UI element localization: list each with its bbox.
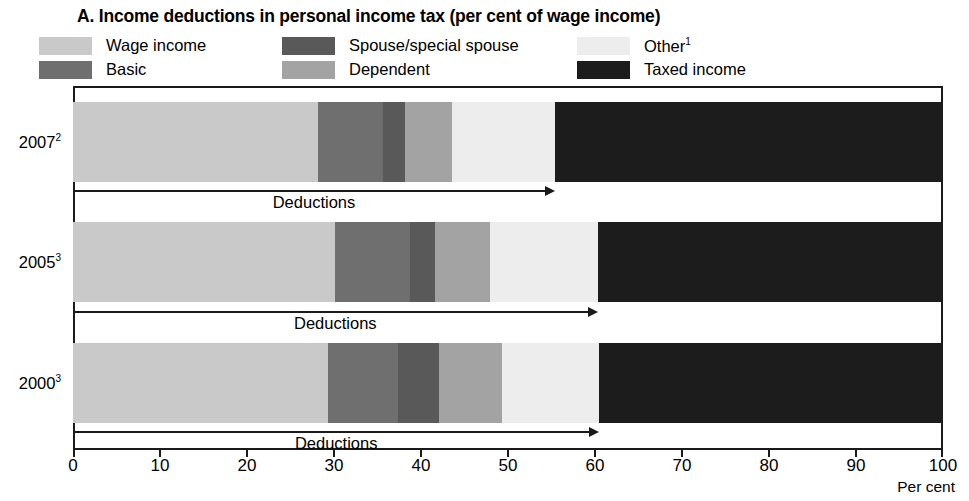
bar-stack: [73, 102, 943, 182]
bar-segment-basic: [335, 222, 410, 302]
legend-swatch-dependent: [282, 61, 335, 79]
legend-item-wage_income: Wage income: [39, 35, 206, 56]
bar-segment-basic: [318, 102, 382, 182]
bar-segment-dependent: [435, 222, 490, 302]
legend-label-wage_income: Wage income: [106, 37, 206, 54]
arrow-head: [589, 427, 599, 437]
axis-tick-label: 100: [929, 456, 957, 476]
arrow-shaft: [73, 311, 589, 313]
bar-segment-spouse: [410, 222, 435, 302]
income-deductions-chart: A. Income deductions in personal income …: [0, 0, 969, 501]
year-label-footnote: 3: [55, 252, 61, 263]
bar-segment-basic: [328, 343, 398, 423]
deduction-annotation: Deductions: [73, 307, 943, 341]
axis-tick-label: 0: [68, 456, 77, 476]
arrow-head: [588, 307, 598, 317]
year-label: 20072: [0, 132, 61, 152]
deduction-label: Deductions: [273, 193, 356, 212]
bar-row: [73, 343, 943, 423]
legend-label-taxed_income: Taxed income: [644, 61, 746, 78]
bar-segment-dependent: [439, 343, 502, 423]
year-label-footnote: 3: [55, 373, 61, 384]
axis-tick-label: 30: [325, 456, 344, 476]
chart-title: A. Income deductions in personal income …: [77, 6, 660, 27]
legend-swatch-other: [577, 37, 630, 55]
legend-swatch-taxed_income: [577, 61, 630, 79]
bar-segment-other: [452, 102, 555, 182]
legend-label-basic: Basic: [106, 61, 146, 78]
bar-stack: [73, 343, 943, 423]
bar-segment-other: [502, 343, 599, 423]
legend-swatch-basic: [39, 61, 92, 79]
axis-tick-label: 70: [673, 456, 692, 476]
year-label: 20003: [0, 373, 61, 393]
legend-label-other: Other1: [644, 37, 691, 54]
year-label-footnote: 2: [55, 132, 61, 143]
bar-segment-spouse: [383, 102, 406, 182]
legend-item-spouse: Spouse/special spouse: [282, 35, 519, 56]
chart-legend: Wage incomeBasicSpouse/special spouseDep…: [0, 33, 969, 81]
axis-tick-label: 90: [847, 456, 866, 476]
bar-segment-spouse: [398, 343, 440, 423]
bar-stack: [73, 222, 943, 302]
legend-label-spouse: Spouse/special spouse: [349, 37, 519, 54]
bar-segment-wage_income: [73, 343, 328, 423]
bar-row: [73, 102, 943, 182]
deduction-label: Deductions: [294, 314, 377, 333]
bar-segment-dependent: [405, 102, 452, 182]
axis-tick-label: 20: [238, 456, 257, 476]
axis-tick-label: 60: [586, 456, 605, 476]
bar-segment-taxed_income: [555, 102, 943, 182]
legend-swatch-spouse: [282, 37, 335, 55]
legend-item-other: Other1: [577, 35, 691, 56]
x-axis-unit-label: Per cent: [897, 478, 955, 496]
bar-segment-wage_income: [73, 222, 335, 302]
legend-item-taxed_income: Taxed income: [577, 59, 746, 80]
legend-label-footnote-other: 1: [685, 36, 691, 47]
bar-segment-wage_income: [73, 102, 318, 182]
bar-segment-other: [490, 222, 598, 302]
axis-tick-label: 10: [151, 456, 170, 476]
year-label: 20053: [0, 252, 61, 272]
bar-row: [73, 222, 943, 302]
axis-tick-label: 50: [499, 456, 518, 476]
legend-item-basic: Basic: [39, 59, 146, 80]
legend-swatch-wage_income: [39, 37, 92, 55]
arrow-head: [545, 186, 555, 196]
axis-tick-label: 80: [760, 456, 779, 476]
axis-tick-label: 40: [412, 456, 431, 476]
deduction-annotation: Deductions: [73, 186, 943, 220]
legend-label-dependent: Dependent: [349, 61, 430, 78]
arrow-shaft: [73, 431, 590, 433]
legend-item-dependent: Dependent: [282, 59, 430, 80]
bar-segment-taxed_income: [599, 343, 943, 423]
arrow-shaft: [73, 190, 546, 192]
bar-segment-taxed_income: [598, 222, 943, 302]
